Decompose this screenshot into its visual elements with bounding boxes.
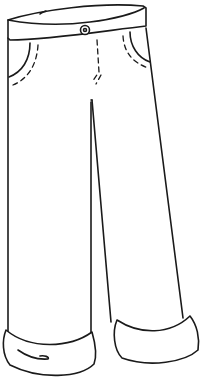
left-leg	[8, 38, 91, 334]
right-pocket	[123, 32, 150, 68]
right-cuff	[114, 316, 198, 363]
right-leg	[92, 28, 183, 322]
button	[81, 26, 90, 35]
waistband	[8, 5, 146, 40]
left-cuff	[3, 330, 95, 375]
pants-line-art	[0, 0, 206, 390]
fly-stitching	[91, 40, 101, 100]
pants-illustration: pants	[0, 0, 206, 390]
left-pocket	[9, 43, 38, 85]
